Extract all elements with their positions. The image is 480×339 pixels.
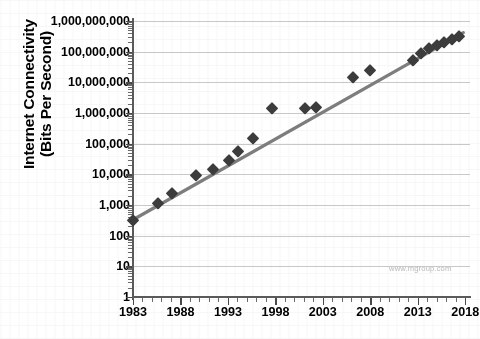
x-tick-major <box>418 297 419 305</box>
watermark-text: www.mgroup.com <box>389 264 451 273</box>
y-tick-label: 1 <box>10 291 130 303</box>
x-tick-label: 2013 <box>404 305 432 319</box>
y-tick-label: 1,000,000,000 <box>10 15 130 27</box>
x-tick-major <box>275 297 276 305</box>
x-tick-label: 1988 <box>166 305 194 319</box>
y-tick-label: 100,000 <box>10 137 130 149</box>
x-tick-major <box>228 297 229 305</box>
y-tick-label: 10,000,000 <box>10 76 130 88</box>
x-tick-major <box>465 297 466 305</box>
x-tick-major <box>180 297 181 305</box>
x-tick-label: 2018 <box>451 305 479 319</box>
x-tick-label: 1983 <box>119 305 147 319</box>
y-tick-label: 100,000,000 <box>10 45 130 57</box>
y-tick-label: 100 <box>10 229 130 241</box>
x-tick-label: 2003 <box>309 305 337 319</box>
chart-figure: Internet Connectivity (Bits Per Second) … <box>0 0 480 339</box>
x-tick-major <box>323 297 324 305</box>
x-tick-label: 2008 <box>356 305 384 319</box>
y-tick-label: 1,000,000 <box>10 107 130 119</box>
x-tick-major <box>370 297 371 305</box>
y-tick-label: 1,000 <box>10 199 130 211</box>
trend-line <box>133 21 470 297</box>
y-tick-label: 10,000 <box>10 168 130 180</box>
y-tick-label: 10 <box>10 260 130 272</box>
x-tick-label: 1998 <box>261 305 289 319</box>
y-axis-tick-labels: 1101001,00010,000100,0001,000,00010,000,… <box>6 0 130 339</box>
plot-area: 19831988199319982003200820132018 <box>133 21 470 297</box>
x-tick-label: 1993 <box>214 305 242 319</box>
